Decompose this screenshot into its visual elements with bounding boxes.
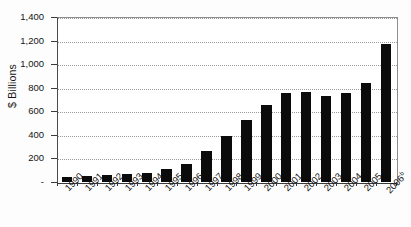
- bar: [321, 96, 331, 182]
- y-axis-label: 1,400: [0, 12, 44, 21]
- bar: [301, 92, 311, 182]
- bar: [381, 44, 391, 182]
- bar-chart: $ Billions -2004006008001,0001,2001,400 …: [0, 0, 411, 227]
- y-axis-label: 1,000: [0, 59, 44, 68]
- bar: [341, 93, 351, 182]
- y-axis-tick-labels: -2004006008001,0001,2001,400: [0, 17, 52, 182]
- x-axis-tick-labels: 1990199119921993199419951996199719981999…: [57, 186, 402, 227]
- footnote-marker: b: [398, 170, 405, 177]
- y-axis-label: -: [0, 177, 44, 186]
- bar: [361, 83, 371, 182]
- y-axis-label: 200: [0, 153, 44, 162]
- y-axis-label: 600: [0, 106, 44, 115]
- y-axis-label: 400: [0, 130, 44, 139]
- bar: [241, 120, 251, 182]
- bar-series: [57, 17, 396, 182]
- y-axis-label: 1,200: [0, 36, 44, 45]
- y-axis-label: 800: [0, 83, 44, 92]
- bar: [261, 105, 271, 182]
- bar: [281, 93, 291, 182]
